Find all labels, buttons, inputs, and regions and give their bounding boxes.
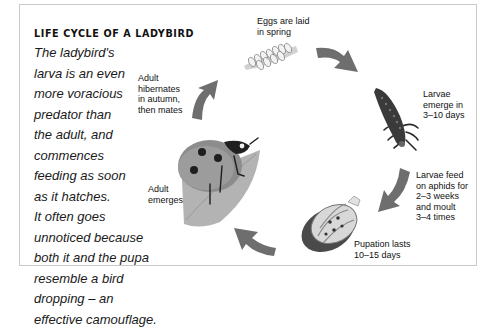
label-line: 2–3 weeks bbox=[416, 191, 468, 202]
label-line: in spring bbox=[257, 27, 310, 38]
description-line: the adult, and bbox=[34, 125, 184, 146]
description-line: It often goes bbox=[34, 207, 184, 228]
label-line: Adult bbox=[138, 73, 183, 84]
label-line: on aphids for bbox=[416, 181, 468, 192]
label-line: Larvae bbox=[423, 89, 465, 100]
stage-label-larvae-feed: Larvae feed on aphids for 2–3 weeks and … bbox=[416, 170, 468, 223]
stage-label-hibernates: Adult hibernates in autumn, then mates bbox=[138, 73, 183, 115]
stage-label-eggs: Eggs are laid in spring bbox=[257, 16, 310, 37]
label-line: in autumn, bbox=[138, 94, 183, 105]
label-line: 3–4 times bbox=[416, 212, 468, 223]
label-line: emerge in bbox=[423, 100, 465, 111]
label-line: Eggs are laid bbox=[257, 16, 310, 27]
diagram-title: LIFE CYCLE OF A LADYBIRD bbox=[34, 28, 194, 39]
stage-label-larvae-emerge: Larvae emerge in 3–10 days bbox=[423, 89, 465, 121]
label-line: 3–10 days bbox=[423, 110, 465, 121]
pupa-icon bbox=[296, 192, 368, 254]
label-line: then mates bbox=[138, 105, 183, 116]
arrow-icon bbox=[314, 44, 360, 76]
description-line: unnoticed because bbox=[34, 228, 184, 249]
label-line: Larvae feed bbox=[416, 170, 468, 181]
eggs-cluster-icon bbox=[240, 38, 300, 72]
description-line: commences bbox=[34, 146, 184, 167]
label-line: hibernates bbox=[138, 84, 183, 95]
arrow-icon bbox=[376, 166, 412, 214]
description-line: The ladybird's bbox=[34, 43, 184, 64]
label-line: and moult bbox=[416, 202, 468, 213]
description-line: effective camouflage. bbox=[34, 310, 184, 330]
larva-icon bbox=[372, 86, 422, 154]
description-line: resemble a bird bbox=[34, 269, 184, 290]
arrow-icon bbox=[190, 80, 220, 120]
description-line: both it and the pupa bbox=[34, 248, 184, 269]
ladybird-on-leaf-icon bbox=[170, 132, 274, 232]
description-line: dropping – an bbox=[34, 289, 184, 310]
